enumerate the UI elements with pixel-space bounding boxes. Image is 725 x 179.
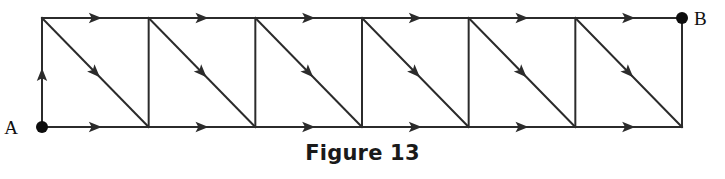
directed-grid-graph: AB	[0, 0, 725, 146]
graph-geometry-layer	[37, 13, 682, 132]
figure-caption: Figure 13	[0, 141, 725, 165]
node-label-A: A	[4, 117, 18, 138]
figure-13-container: AB Figure 13	[0, 0, 725, 179]
node-label-B: B	[694, 8, 707, 29]
node-dot-A	[36, 121, 48, 133]
graph-node-layer: AB	[4, 8, 706, 138]
node-dot-B	[676, 12, 688, 24]
